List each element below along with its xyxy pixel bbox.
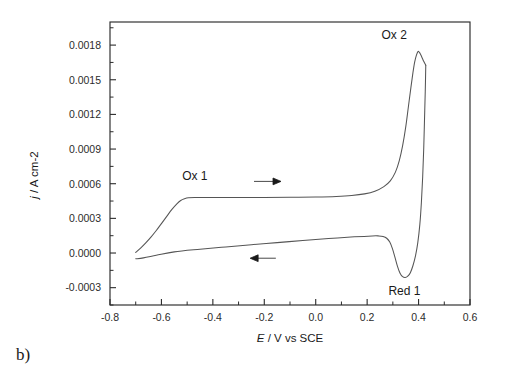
voltammogram-curves [136, 51, 426, 277]
x-tick-label: -0.8 [101, 311, 119, 323]
annotation-red1: Red 1 [388, 284, 420, 298]
y-tick-label: 0.0006 [69, 178, 101, 190]
x-axis-tick-labels: -0.8-0.6-0.4-0.20.00.20.40.6 [101, 311, 477, 323]
x-tick-label: -0.2 [255, 311, 273, 323]
forward-sweep-arrow-head [273, 178, 281, 185]
x-tick-label: 0.0 [308, 311, 323, 323]
cyclic-voltammogram-chart: -0.8-0.6-0.4-0.20.00.20.40.6 -0.00030.00… [0, 0, 513, 378]
curve-forward-anodic-sweep [136, 51, 426, 252]
panel-label: b) [16, 345, 30, 364]
sweep-direction-arrows [250, 178, 281, 262]
y-tick-label: 0.0003 [69, 212, 101, 224]
y-axis-tick-labels: -0.00030.00000.00030.00060.00090.00120.0… [65, 39, 101, 294]
x-axis-title: E / V vs SCE [257, 332, 324, 344]
x-tick-label: -0.6 [152, 311, 170, 323]
reverse-sweep-arrow-head [250, 255, 258, 262]
x-tick-label: -0.4 [204, 311, 222, 323]
y-tick-label: 0.0015 [69, 74, 101, 86]
y-tick-label: 0.0018 [69, 39, 101, 51]
y-tick-label: 0.0009 [69, 143, 101, 155]
plot-frame [110, 22, 470, 305]
y-tick-label: -0.0003 [65, 281, 101, 293]
y-tick-label: 0.0000 [69, 247, 101, 259]
x-tick-label: 0.6 [463, 311, 478, 323]
curve-reverse-cathodic-sweep [136, 65, 426, 277]
x-tick-label: 0.4 [411, 311, 426, 323]
y-axis-title: j / A cm-2 [28, 151, 40, 200]
peak-annotations: Ox 1Ox 2Red 1 [182, 28, 421, 297]
x-tick-label: 0.2 [360, 311, 375, 323]
figure-container: -0.8-0.6-0.4-0.20.00.20.40.6 -0.00030.00… [0, 0, 513, 378]
y-tick-label: 0.0012 [69, 108, 101, 120]
annotation-ox2: Ox 2 [381, 28, 407, 42]
annotation-ox1: Ox 1 [182, 169, 208, 183]
